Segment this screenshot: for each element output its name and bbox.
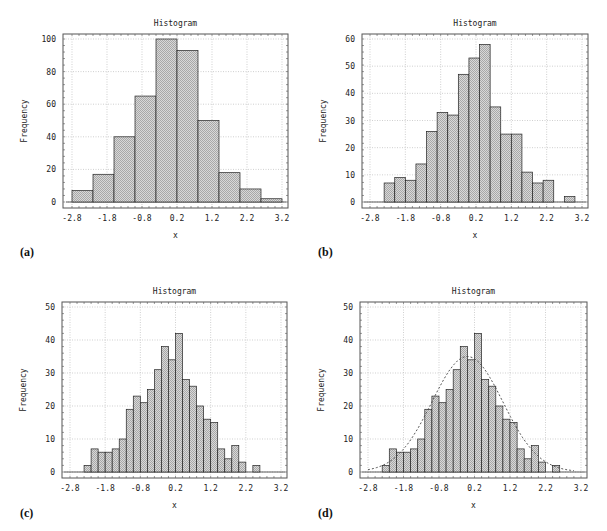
histogram-bar [411, 449, 418, 472]
x-tick-label: 1.2 [503, 484, 518, 493]
histogram-bar [416, 164, 427, 202]
histogram-bar [453, 370, 460, 472]
histogram-bar [133, 396, 140, 472]
x-tick-label: -1.8 [96, 484, 115, 493]
histogram-bar [425, 409, 432, 472]
histogram-bar [190, 386, 197, 472]
histogram-bar [395, 178, 406, 202]
y-tick-label: 20 [45, 402, 55, 411]
y-tick-label: 30 [45, 369, 55, 378]
y-tick-label: 50 [345, 62, 355, 71]
y-tick-label: 20 [343, 402, 353, 411]
histogram-bar [467, 360, 474, 472]
histogram-bar [458, 74, 469, 202]
x-tick-label: 3.2 [575, 214, 590, 223]
x-tick-label: 2.2 [539, 214, 554, 223]
histogram-bar [448, 115, 459, 202]
histogram-bar [469, 58, 480, 202]
x-tick-label: 0.2 [467, 484, 482, 493]
x-axis-label: x [473, 231, 478, 240]
histogram-bar [253, 465, 260, 472]
y-tick-label: 100 [42, 35, 57, 44]
histogram-bar [427, 131, 438, 202]
y-tick-label: 60 [46, 100, 56, 109]
histogram-bar [384, 183, 395, 202]
x-tick-label: 1.2 [504, 214, 519, 223]
histogram-bar [437, 112, 448, 202]
panel-label-a: (a) [20, 245, 34, 260]
histogram-bar [496, 406, 503, 472]
x-tick-label: 3.2 [275, 214, 290, 223]
chart-title: Histogram [452, 287, 496, 296]
x-tick-label: 2.2 [538, 484, 553, 493]
y-tick-label: 50 [343, 303, 353, 312]
histogram-bar [533, 183, 544, 202]
histogram-bar [432, 396, 439, 472]
histogram-bar [204, 419, 211, 472]
y-tick-label: 0 [50, 468, 55, 477]
histogram-bar [232, 446, 239, 472]
x-tick-label: -2.8 [62, 214, 81, 223]
x-tick-label: 1.2 [205, 214, 220, 223]
histogram-bar [225, 459, 232, 472]
histogram-bar [219, 173, 240, 202]
histogram-c-svg: Histogram-2.8-1.8-0.80.21.22.23.20102030… [0, 270, 300, 510]
histogram-bar [439, 403, 446, 472]
histogram-bar [126, 409, 133, 472]
x-tick-label: -0.8 [131, 484, 150, 493]
x-tick-label: 2.2 [239, 484, 254, 493]
histogram-panel-a: Histogram-2.8-1.8-0.80.21.22.23.20204060… [0, 0, 300, 240]
histogram-bar [405, 180, 416, 202]
histogram-bar [147, 390, 154, 473]
histogram-bar [93, 174, 114, 202]
histogram-bar [517, 449, 524, 472]
y-tick-label: 0 [51, 198, 56, 207]
histogram-b-svg: Histogram-2.8-1.8-0.80.21.22.23.20102030… [300, 0, 607, 240]
y-axis-label: Frequency [19, 368, 28, 412]
histogram-bar [183, 380, 190, 472]
y-tick-label: 40 [343, 336, 353, 345]
chart-title: Histogram [453, 19, 497, 28]
y-tick-label: 40 [345, 89, 355, 98]
histogram-bar [218, 449, 225, 472]
chart-title: Histogram [154, 19, 198, 28]
x-tick-label: -0.8 [429, 484, 448, 493]
histogram-bar [197, 406, 204, 472]
histogram-bar [119, 439, 126, 472]
histogram-bar [404, 452, 411, 472]
y-tick-label: 50 [45, 303, 55, 312]
histogram-bar [156, 39, 177, 202]
histogram-bar [135, 96, 156, 202]
y-axis-label: Frequency [319, 99, 328, 143]
histogram-bar [489, 386, 496, 472]
histogram-bar [239, 462, 246, 472]
histogram-bar [98, 452, 105, 472]
histogram-bar [84, 465, 91, 472]
x-axis-label: x [172, 501, 177, 510]
histogram-bar [161, 347, 168, 472]
histogram-bar [460, 347, 467, 472]
histogram-bar [261, 199, 282, 202]
histogram-bar [112, 449, 119, 472]
x-tick-label: -2.8 [360, 214, 379, 223]
histogram-bar [524, 459, 531, 472]
y-tick-label: 10 [45, 435, 55, 444]
histogram-bar [475, 333, 482, 472]
y-tick-label: 10 [343, 435, 353, 444]
histogram-bar [501, 134, 512, 202]
y-tick-label: 40 [46, 133, 56, 142]
histogram-bar [177, 50, 198, 202]
histogram-bar [382, 465, 389, 472]
histogram-bar [168, 360, 175, 472]
x-tick-label: 0.2 [469, 214, 484, 223]
y-tick-label: 10 [345, 171, 355, 180]
histogram-bar [522, 172, 533, 202]
histogram-a-svg: Histogram-2.8-1.8-0.80.21.22.23.20204060… [0, 0, 300, 240]
chart-title: Histogram [153, 287, 197, 296]
histogram-bar [446, 390, 453, 473]
x-tick-label: 1.2 [203, 484, 218, 493]
histogram-bar [531, 446, 538, 472]
y-tick-label: 60 [345, 35, 355, 44]
y-tick-label: 30 [343, 369, 353, 378]
y-tick-label: 20 [345, 144, 355, 153]
